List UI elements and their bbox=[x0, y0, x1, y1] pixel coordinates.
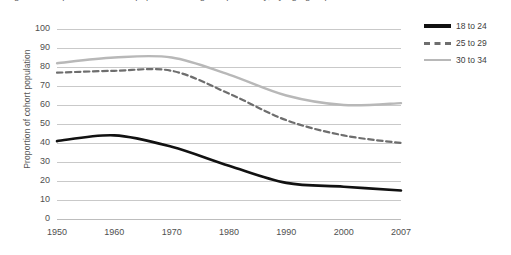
y-axis-tick-label: 30 bbox=[10, 156, 50, 166]
x-axis-tick-label: 1990 bbox=[256, 227, 316, 237]
gridline bbox=[57, 219, 401, 220]
legend-item-2[interactable]: 30 to 34 bbox=[424, 51, 508, 68]
series-line-30-to-34 bbox=[57, 56, 401, 105]
y-axis-tick-label: 90 bbox=[10, 42, 50, 52]
y-axis-tick-label: 50 bbox=[10, 118, 50, 128]
x-axis-tick-label: 2007 bbox=[371, 227, 431, 237]
y-axis-tick-label: 80 bbox=[10, 61, 50, 71]
legend-item-1[interactable]: 25 to 29 bbox=[424, 34, 508, 51]
legend-swatch-line-icon bbox=[424, 21, 451, 31]
chart-title-text: Figure 1. Proportion of cohort populatio… bbox=[6, 0, 330, 1]
legend-item-0[interactable]: 18 to 24 bbox=[424, 17, 508, 34]
y-axis-tick-label: 100 bbox=[10, 23, 50, 33]
y-axis-tick-label: 20 bbox=[10, 175, 50, 185]
legend-swatch-line-icon bbox=[424, 55, 451, 65]
line-chart: Figure 1. Proportion of cohort populatio… bbox=[0, 0, 511, 255]
plot-area bbox=[57, 29, 401, 219]
legend-label: 25 to 29 bbox=[456, 38, 487, 48]
series-layer bbox=[57, 29, 401, 219]
x-axis-tick-label: 1950 bbox=[27, 227, 87, 237]
x-axis-tick-label: 1970 bbox=[142, 227, 202, 237]
chart-title-cropped: Figure 1. Proportion of cohort populatio… bbox=[0, 0, 511, 11]
series-line-18-to-24 bbox=[57, 135, 401, 190]
y-axis-tick-label: 0 bbox=[10, 213, 50, 223]
y-axis-tick-label: 60 bbox=[10, 99, 50, 109]
legend: 18 to 24 25 to 29 30 to 34 bbox=[424, 17, 508, 68]
y-axis-tick-label: 40 bbox=[10, 137, 50, 147]
legend-swatch-dashed-line-icon bbox=[424, 38, 451, 48]
x-axis-tick-label: 2000 bbox=[314, 227, 374, 237]
x-axis-tick-label: 1980 bbox=[199, 227, 259, 237]
x-axis-tick-label: 1960 bbox=[84, 227, 144, 237]
legend-label: 30 to 34 bbox=[456, 55, 487, 65]
legend-label: 18 to 24 bbox=[456, 21, 487, 31]
y-axis-tick-label: 10 bbox=[10, 194, 50, 204]
y-axis-tick-label: 70 bbox=[10, 80, 50, 90]
